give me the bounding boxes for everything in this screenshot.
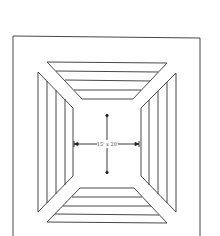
arrow-end-top-icon: [106, 114, 108, 116]
arrowhead-right-icon: [135, 143, 139, 146]
right-louver-panel: [141, 73, 176, 212]
diffuser-diagram: 15' x 20': [0, 0, 220, 236]
dimension-label: 15' x 20': [97, 141, 118, 147]
left-louver-panel: [38, 72, 73, 212]
arrow-end-bottom-icon: [106, 171, 108, 173]
bottom-louver-panel: [47, 188, 167, 223]
top-louver-panel: [47, 62, 167, 99]
arrowhead-left-icon: [74, 143, 78, 146]
